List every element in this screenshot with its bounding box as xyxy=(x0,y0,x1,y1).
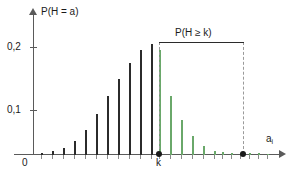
bracket-guide-left xyxy=(159,42,160,154)
bar-a7 xyxy=(118,79,120,155)
x-tick-a3 xyxy=(74,155,75,159)
x-tick-a22 xyxy=(267,155,268,159)
x-axis-title-base: a xyxy=(266,133,272,144)
bar-a9 xyxy=(140,50,142,155)
x-tick-a9 xyxy=(140,155,141,159)
x-tick-a12 xyxy=(170,155,171,159)
threshold-label-k: k xyxy=(156,157,161,168)
x-tick-a16 xyxy=(214,155,215,159)
tail-probability-bracket xyxy=(159,42,244,43)
x-axis-title: ai xyxy=(266,133,273,144)
y-tick-label-0-1: 0,1 xyxy=(7,104,21,115)
bar-a15 xyxy=(203,146,205,155)
bar-a4 xyxy=(85,130,87,155)
y-axis-line xyxy=(33,14,34,155)
bar-a14 xyxy=(192,136,194,155)
x-tick-a17 xyxy=(222,155,223,159)
tail-probability-label: P(H ≥ k) xyxy=(175,27,212,38)
x-tick-a8 xyxy=(129,155,130,159)
y-axis-arrow-icon xyxy=(29,8,37,15)
bar-a10 xyxy=(151,44,153,155)
x-tick-a5 xyxy=(96,155,97,159)
bracket-guide-right xyxy=(243,42,244,154)
y-tick-label-0-2: 0,2 xyxy=(7,41,21,52)
x-tick-a13 xyxy=(181,155,182,159)
x-tick-a18 xyxy=(231,155,232,159)
x-tick-a6 xyxy=(107,155,108,159)
bar-a8 xyxy=(129,63,131,155)
x-tick-a7 xyxy=(118,155,119,159)
x-tick-a15 xyxy=(203,155,204,159)
x-tick-a1 xyxy=(52,155,53,159)
probability-distribution-chart: 0,2 0,1 0 P(H = a) ai P(H ≥ k) k xyxy=(0,0,290,177)
x-tick-a14 xyxy=(192,155,193,159)
x-tick-a2 xyxy=(63,155,64,159)
y-axis-title: P(H = a) xyxy=(41,6,79,17)
bar-a6 xyxy=(107,96,109,155)
bar-a5 xyxy=(96,114,98,155)
y-tick-0-1 xyxy=(30,110,37,111)
bar-a2 xyxy=(63,148,65,155)
origin-label: 0 xyxy=(22,157,28,168)
bar-a13 xyxy=(181,120,183,155)
x-axis-title-subscript: i xyxy=(272,138,274,145)
x-tick-a20 xyxy=(249,155,250,159)
x-tick-a10 xyxy=(151,155,152,159)
bar-a12 xyxy=(170,96,172,155)
x-axis-arrow-icon xyxy=(279,150,286,158)
bar-a3 xyxy=(74,141,76,155)
range-end-dot xyxy=(240,151,246,157)
x-tick-a0 xyxy=(41,155,42,159)
x-tick-a4 xyxy=(85,155,86,159)
y-tick-0-2 xyxy=(30,47,37,48)
x-tick-a21 xyxy=(258,155,259,159)
